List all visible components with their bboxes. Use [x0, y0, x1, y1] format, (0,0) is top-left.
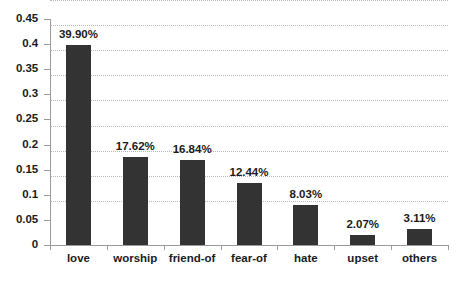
y-tick-label: 0.45 — [2, 13, 38, 25]
bar-value-label: 8.03% — [279, 189, 333, 201]
x-tick — [221, 245, 222, 250]
y-tick-label: 0.3 — [2, 88, 38, 100]
bar-value-label: 16.84% — [165, 144, 219, 156]
bar — [350, 235, 375, 245]
bar-value-label: 12.44% — [222, 167, 276, 179]
bar-value-label: 39.90% — [51, 29, 105, 41]
gridline — [50, 0, 448, 1]
x-tick — [164, 245, 165, 250]
y-tick-label: 0.2 — [2, 139, 38, 151]
bar — [66, 45, 91, 245]
x-tick — [334, 245, 335, 250]
bar-value-label: 2.07% — [336, 219, 390, 231]
bar-value-label: 17.62% — [108, 141, 162, 153]
x-tick — [50, 245, 51, 250]
y-tick-label: 0.1 — [2, 189, 38, 201]
x-tick — [277, 245, 278, 250]
y-tick-label: 0 — [2, 239, 38, 251]
plot-area — [50, 19, 448, 245]
x-axis-line — [50, 245, 448, 246]
y-tick-label: 0.25 — [2, 113, 38, 125]
y-tick-label: 0.35 — [2, 63, 38, 75]
y-tick-label: 0.4 — [2, 38, 38, 50]
x-tick — [448, 245, 449, 250]
x-category-label: others — [386, 253, 454, 265]
bar-chart: 00.050.10.150.20.250.30.350.40.45 lovewo… — [0, 0, 456, 283]
bar — [123, 157, 148, 245]
bar — [293, 205, 318, 245]
bar — [237, 183, 262, 245]
y-tick-label: 0.15 — [2, 164, 38, 176]
y-tick-label: 0.05 — [2, 214, 38, 226]
bar-value-label: 3.11% — [393, 213, 447, 225]
bar — [180, 160, 205, 245]
x-tick — [107, 245, 108, 250]
bar — [407, 229, 432, 245]
x-tick — [391, 245, 392, 250]
